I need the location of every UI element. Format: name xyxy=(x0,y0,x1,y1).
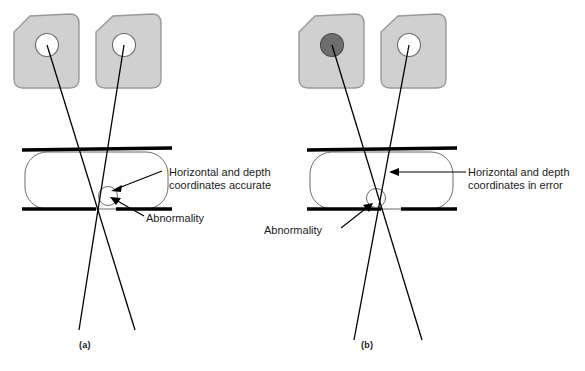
panel-b xyxy=(299,14,466,340)
panel-a-upper-paddle xyxy=(22,148,172,150)
panel-b-caption: (b) xyxy=(361,340,373,350)
panel-a-coordinates-note-line2: coordinates accurate xyxy=(169,179,271,192)
panel-b-abnormality-note: Abnormality xyxy=(264,224,322,237)
figure-canvas: Horizontal and depth coordinates accurat… xyxy=(0,0,585,371)
panel-a-abnormality-note: Abnormality xyxy=(146,212,204,225)
panel-a-caption: (a) xyxy=(79,340,91,350)
panel-a-abnormality-note-line1: Abnormality xyxy=(146,212,204,225)
panel-a-body-outline xyxy=(25,152,168,209)
panel-b-coordinates-note-line2: coordinates in error xyxy=(468,179,570,192)
panel-b-coordinates-note: Horizontal and depth coordinates in erro… xyxy=(468,166,570,191)
panel-b-abnormality-note-line1: Abnormality xyxy=(264,224,322,237)
panel-b-coordinates-note-line1: Horizontal and depth xyxy=(468,166,570,179)
panel-a xyxy=(14,14,172,330)
panel-a-coordinates-note-line1: Horizontal and depth xyxy=(169,166,271,179)
panel-a-coordinates-note: Horizontal and depth coordinates accurat… xyxy=(169,166,271,191)
panel-b-upper-paddle xyxy=(307,148,457,150)
